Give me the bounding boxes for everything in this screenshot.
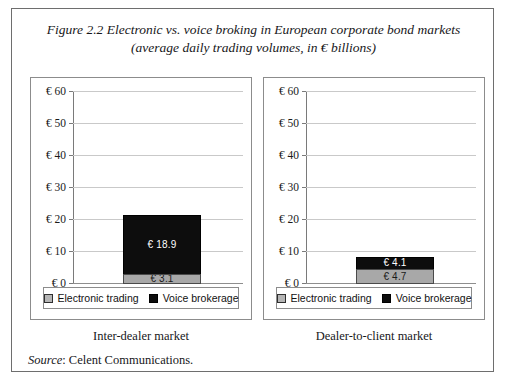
bar-label-electronic-trading: € 4.7 (383, 272, 406, 282)
gridline-20-right: € 20 (306, 219, 476, 220)
y-tick-label-40-left: € 40 (46, 149, 66, 161)
y-tick-label-50-right: € 50 (279, 117, 299, 129)
gridline-40-right: € 40 (306, 155, 476, 156)
bar-label-voice-brokerage: € 4.1 (383, 258, 406, 268)
figure-frame: Figure 2.2 Electronic vs. voice broking … (11, 8, 494, 372)
gridline-30-right: € 30 (306, 187, 476, 188)
y-axis-line-left (73, 92, 74, 284)
y-tick-label-20-right: € 20 (279, 213, 299, 225)
category-label-inter-dealer: Inter-dealer market (30, 329, 252, 344)
source-text: : Celent Communications. (62, 353, 193, 367)
chart-panel-inter-dealer: € 0 € 10 € 20 € 30 € 40 € 50 € 60 € 18.9… (30, 77, 252, 320)
legend-swatch-electronic-trading-icon (277, 294, 286, 303)
category-label-dealer-to-client: Dealer-to-client market (263, 329, 485, 344)
figure-title-line-2: (average daily trading volumes, in € bil… (20, 39, 487, 57)
legend-entry-electronic-trading[interactable]: Electronic trading (277, 292, 372, 304)
bar-segment-electronic-trading[interactable]: € 4.7 (356, 269, 434, 284)
gridline-50-left: € 50 (73, 123, 243, 124)
legend-label-voice-brokerage: Voice brokerage (163, 292, 239, 304)
bar-label-electronic-trading: € 3.1 (150, 274, 173, 284)
legend-entry-voice-brokerage[interactable]: Voice brokerage (149, 292, 239, 304)
plot-area-right: € 0 € 10 € 20 € 30 € 40 € 50 € 60 € 4.1 … (306, 92, 476, 284)
gridline-30-left: € 30 (73, 187, 243, 188)
gridline-60-left: € 60 (73, 91, 243, 92)
y-tick-label-40-right: € 40 (279, 149, 299, 161)
legend-left: Electronic trading Voice brokerage (43, 287, 239, 309)
y-tick-label-30-right: € 30 (279, 181, 299, 193)
gridline-40-left: € 40 (73, 155, 243, 156)
y-tick-label-10-left: € 10 (46, 245, 66, 257)
legend-label-electronic-trading: Electronic trading (58, 292, 139, 304)
y-tick-label-20-left: € 20 (46, 213, 66, 225)
y-tick-label-10-right: € 10 (279, 245, 299, 257)
legend-swatch-electronic-trading-icon (44, 294, 53, 303)
legend-swatch-voice-brokerage-icon (382, 294, 391, 303)
y-tick-label-50-left: € 50 (46, 117, 66, 129)
legend-swatch-voice-brokerage-icon (149, 294, 158, 303)
figure-title-line-1: Figure 2.2 Electronic vs. voice broking … (20, 21, 487, 39)
stacked-bar-inter-dealer[interactable]: € 18.9 € 3.1 (123, 216, 201, 284)
legend-entry-voice-brokerage[interactable]: Voice brokerage (382, 292, 472, 304)
y-tick-label-60-left: € 60 (46, 85, 66, 97)
legend-entry-electronic-trading[interactable]: Electronic trading (44, 292, 139, 304)
bar-segment-electronic-trading[interactable]: € 3.1 (123, 274, 201, 284)
source-keyword: Source (28, 353, 62, 367)
legend-right: Electronic trading Voice brokerage (276, 287, 472, 309)
stacked-bar-dealer-to-client[interactable]: € 4.1 € 4.7 (356, 258, 434, 284)
y-axis-line-right (306, 92, 307, 284)
plot-area-left: € 0 € 10 € 20 € 30 € 40 € 50 € 60 € 18.9… (73, 92, 243, 284)
y-tick-label-30-left: € 30 (46, 181, 66, 193)
bar-segment-voice-brokerage[interactable]: € 18.9 (123, 215, 201, 276)
legend-label-voice-brokerage: Voice brokerage (396, 292, 472, 304)
gridline-50-right: € 50 (306, 123, 476, 124)
chart-panel-dealer-to-client: € 0 € 10 € 20 € 30 € 40 € 50 € 60 € 4.1 … (263, 77, 485, 320)
y-tick-label-60-right: € 60 (279, 85, 299, 97)
figure-title: Figure 2.2 Electronic vs. voice broking … (20, 21, 487, 57)
gridline-60-right: € 60 (306, 91, 476, 92)
gridline-10-right: € 10 (306, 251, 476, 252)
source-note: Source: Celent Communications. (28, 353, 193, 368)
legend-label-electronic-trading: Electronic trading (291, 292, 372, 304)
bar-label-voice-brokerage: € 18.9 (147, 240, 176, 250)
